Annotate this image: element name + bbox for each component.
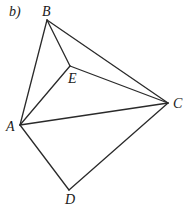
geometry-diagram: b) BECAD [0, 0, 185, 205]
edge-bc [47, 20, 168, 103]
vertex-label-b: B [42, 4, 51, 19]
figure-label: b) [9, 4, 21, 20]
vertex-label-c: C [173, 96, 183, 111]
vertex-label-d: D [64, 192, 75, 205]
vertex-label-e: E [67, 71, 77, 86]
edge-ec [70, 66, 168, 103]
edge-ad [20, 125, 69, 190]
vertex-label-a: A [5, 119, 15, 134]
edge-be [47, 20, 70, 66]
edges [20, 20, 168, 190]
